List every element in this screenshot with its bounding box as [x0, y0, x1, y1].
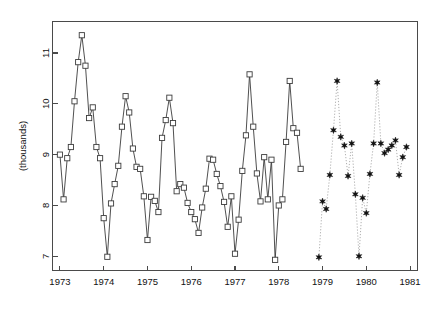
data-point-observed	[258, 199, 263, 204]
series-group	[57, 33, 409, 263]
data-point-forecast	[327, 172, 333, 179]
data-point-observed	[163, 117, 168, 122]
data-point-observed	[68, 144, 73, 149]
data-point-observed	[265, 197, 270, 202]
data-point-observed	[294, 130, 299, 135]
data-point-observed	[72, 99, 77, 104]
data-point-observed	[170, 121, 175, 126]
series-line-forecast	[319, 81, 407, 257]
data-point-observed	[203, 186, 208, 191]
data-point-forecast	[367, 171, 373, 178]
data-point-forecast	[334, 78, 340, 85]
data-point-forecast	[400, 154, 406, 161]
data-point-observed	[247, 72, 252, 77]
data-point-observed	[276, 203, 281, 208]
data-point-observed	[152, 198, 157, 203]
data-point-observed	[94, 144, 99, 149]
data-point-observed	[298, 166, 303, 171]
data-point-observed	[138, 166, 143, 171]
data-point-observed	[225, 224, 230, 229]
data-point-forecast	[316, 254, 322, 261]
data-point-forecast	[371, 140, 377, 147]
axes-group	[53, 22, 418, 271]
x-tick-label: 1977	[224, 276, 245, 287]
y-axis-title: (thousands)	[17, 121, 28, 171]
data-point-observed	[269, 157, 274, 162]
data-point-observed	[200, 205, 205, 210]
data-point-observed	[167, 95, 172, 100]
data-point-observed	[130, 146, 135, 151]
data-point-observed	[119, 124, 124, 129]
data-point-observed	[97, 156, 102, 161]
data-point-observed	[90, 105, 95, 110]
data-point-observed	[83, 63, 88, 68]
data-point-observed	[174, 189, 179, 194]
data-point-forecast	[363, 210, 369, 217]
data-point-observed	[229, 194, 234, 199]
data-point-observed	[192, 217, 197, 222]
data-point-observed	[218, 184, 223, 189]
data-point-observed	[108, 201, 113, 206]
x-tick-label: 1973	[49, 276, 70, 287]
data-point-observed	[196, 230, 201, 235]
y-tick-label: 9	[40, 152, 51, 157]
data-point-observed	[185, 200, 190, 205]
data-point-forecast	[345, 173, 351, 180]
data-point-forecast	[356, 253, 362, 260]
data-point-forecast	[353, 191, 359, 198]
data-point-observed	[105, 254, 110, 259]
data-point-forecast	[349, 140, 355, 147]
x-tick-label: 1975	[137, 276, 158, 287]
x-tick-label: 1980	[356, 276, 377, 287]
data-point-observed	[145, 237, 150, 242]
data-point-forecast	[331, 127, 337, 134]
data-point-forecast	[378, 140, 384, 147]
data-point-forecast	[396, 172, 402, 179]
data-point-forecast	[360, 195, 366, 202]
data-point-observed	[76, 60, 81, 65]
x-tick-label: 1979	[312, 276, 333, 287]
data-point-observed	[57, 152, 62, 157]
data-point-forecast	[323, 206, 329, 213]
data-point-forecast	[342, 142, 348, 149]
plot-frame	[53, 22, 418, 271]
data-point-observed	[221, 199, 226, 204]
data-point-observed	[211, 157, 216, 162]
data-point-observed	[283, 139, 288, 144]
data-point-observed	[87, 115, 92, 120]
data-point-forecast	[389, 142, 395, 149]
x-tick-label: 1974	[93, 276, 114, 287]
data-point-observed	[61, 197, 66, 202]
data-point-observed	[101, 216, 106, 221]
data-point-observed	[262, 155, 267, 160]
chart-figure: 1973197419751976197719781979198019817891…	[0, 0, 442, 310]
data-point-observed	[251, 124, 256, 129]
data-point-observed	[236, 217, 241, 222]
data-point-observed	[79, 33, 84, 38]
data-point-observed	[116, 163, 121, 168]
data-point-observed	[112, 182, 117, 187]
chart-canvas: 1973197419751976197719781979198019817891…	[0, 0, 442, 310]
y-tick-label: 7	[40, 254, 51, 259]
data-point-observed	[156, 209, 161, 214]
data-point-forecast	[374, 79, 380, 86]
data-point-observed	[189, 209, 194, 214]
data-point-observed	[127, 110, 132, 115]
axis-labels-group: 1973197419751976197719781979198019817891…	[17, 48, 421, 286]
data-point-forecast	[393, 137, 399, 144]
x-tick-label: 1976	[181, 276, 202, 287]
data-point-observed	[123, 94, 128, 99]
x-tick-label: 1981	[399, 276, 420, 287]
data-point-observed	[287, 78, 292, 83]
data-point-observed	[181, 185, 186, 190]
y-tick-label: 11	[40, 48, 51, 58]
data-point-forecast	[320, 198, 326, 205]
data-point-observed	[232, 251, 237, 256]
data-point-observed	[141, 194, 146, 199]
data-point-observed	[254, 171, 259, 176]
data-point-observed	[214, 171, 219, 176]
data-point-observed	[65, 156, 70, 161]
y-tick-label: 8	[40, 203, 51, 208]
data-point-observed	[273, 257, 278, 262]
y-tick-label: 10	[40, 99, 51, 110]
